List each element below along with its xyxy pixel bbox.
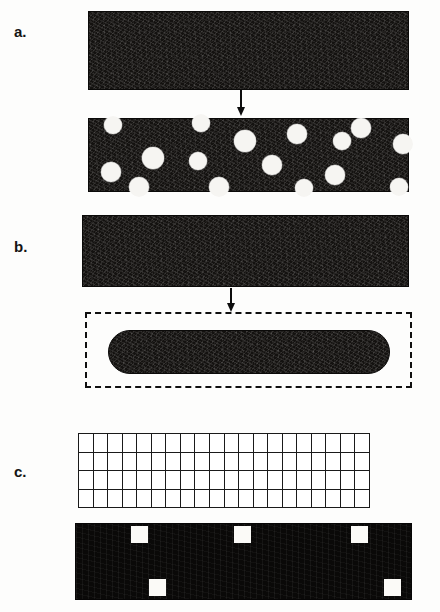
- pore: [101, 162, 121, 182]
- grid-cell: [152, 490, 167, 509]
- grid-cell: [108, 453, 123, 472]
- grid-cell: [195, 453, 210, 472]
- grid-cell: [312, 490, 327, 509]
- grid-cell: [355, 471, 370, 490]
- panel-label-b: b.: [14, 239, 27, 254]
- grid-cell: [355, 434, 370, 453]
- vacancy-cell: [149, 579, 166, 596]
- grid-cell: [268, 471, 283, 490]
- grid-cell: [225, 471, 240, 490]
- grid-cell: [166, 453, 181, 472]
- grid-cell: [225, 434, 240, 453]
- panel-label-a: a.: [14, 24, 27, 39]
- grid-cell: [210, 490, 225, 509]
- grid-cell: [108, 434, 123, 453]
- grid-cell: [181, 453, 196, 472]
- grid-cell: [94, 434, 109, 453]
- grid-cell: [254, 471, 269, 490]
- pore: [209, 177, 229, 197]
- dense-bar-a: [88, 11, 409, 90]
- grid-cell: [239, 453, 254, 472]
- grid-cell: [137, 453, 152, 472]
- grid-cell: [79, 453, 94, 472]
- pore: [390, 178, 408, 196]
- grid-cell: [297, 490, 312, 509]
- grid-cell: [210, 453, 225, 472]
- grid-cell: [312, 434, 327, 453]
- figure-canvas: a. b. c.: [0, 0, 440, 612]
- arrow-shaft: [240, 90, 242, 108]
- pore: [234, 130, 256, 152]
- grid-cell: [239, 471, 254, 490]
- grid-cell: [79, 490, 94, 509]
- grid-cell: [225, 490, 240, 509]
- grid-cell: [254, 453, 269, 472]
- grid-cell: [239, 490, 254, 509]
- grid-cell: [181, 490, 196, 509]
- grid-cell: [326, 490, 341, 509]
- grid-cell: [355, 453, 370, 472]
- grid-cell: [283, 453, 298, 472]
- grid-cell: [283, 434, 298, 453]
- grid-cell: [123, 434, 138, 453]
- lattice-grid: [78, 433, 370, 508]
- vacancy-cell: [234, 526, 251, 543]
- grid-cell: [152, 471, 167, 490]
- pore: [142, 147, 164, 169]
- filled-lattice-bar: [75, 523, 412, 600]
- grid-cell: [341, 471, 356, 490]
- grid-cell: [326, 453, 341, 472]
- pore: [295, 179, 313, 197]
- pore: [104, 116, 122, 134]
- grid-cell: [166, 434, 181, 453]
- pore: [189, 152, 207, 170]
- grid-cell: [297, 434, 312, 453]
- grid-cell: [283, 490, 298, 509]
- grid-cell: [254, 434, 269, 453]
- dense-bar-b: [82, 215, 409, 287]
- grid-cell: [210, 471, 225, 490]
- pore: [262, 155, 282, 175]
- grid-cell: [79, 471, 94, 490]
- grid-cell: [108, 471, 123, 490]
- grid-cell: [137, 490, 152, 509]
- grid-cell: [137, 434, 152, 453]
- grid-cell: [239, 434, 254, 453]
- grid-cell: [312, 471, 327, 490]
- arrow-head: [237, 107, 245, 116]
- grid-cell: [166, 490, 181, 509]
- vacancy-cell: [131, 526, 148, 543]
- pore: [129, 177, 149, 197]
- grid-cell: [123, 471, 138, 490]
- grid-cell: [123, 453, 138, 472]
- grid-cell: [94, 453, 109, 472]
- arrow-shaft: [230, 288, 232, 304]
- grid-cell: [268, 453, 283, 472]
- grid-cell: [297, 453, 312, 472]
- grid-cell: [225, 453, 240, 472]
- pore: [351, 118, 371, 138]
- grid-cell: [355, 490, 370, 509]
- pore: [287, 124, 307, 144]
- grid-cell: [195, 434, 210, 453]
- grid-cell: [94, 490, 109, 509]
- grid-cell: [108, 490, 123, 509]
- pore: [325, 165, 345, 185]
- transition-arrow-a: [236, 90, 246, 116]
- grid-cell: [297, 471, 312, 490]
- grid-cell: [341, 434, 356, 453]
- panel-label-c: c.: [14, 464, 27, 479]
- grid-cell: [94, 471, 109, 490]
- vacancy-cell: [384, 579, 401, 596]
- transition-arrow-b: [226, 288, 236, 312]
- grid-cell: [341, 453, 356, 472]
- grid-cell: [152, 434, 167, 453]
- grid-cell: [210, 434, 225, 453]
- porous-bar-a: [88, 118, 409, 192]
- pore: [393, 134, 413, 154]
- grid-cell: [341, 490, 356, 509]
- grid-cell: [195, 490, 210, 509]
- grid-cell: [268, 434, 283, 453]
- grid-cell: [254, 490, 269, 509]
- grid-cell: [123, 490, 138, 509]
